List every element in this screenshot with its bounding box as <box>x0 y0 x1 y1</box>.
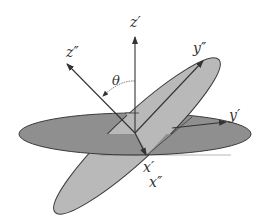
z-prime-label: z′ <box>129 14 141 30</box>
x-prime-label: x′ <box>143 159 155 175</box>
z-double-prime-label: z″ <box>65 44 79 60</box>
y-prime-label: y′ <box>228 107 241 123</box>
y-double-prime-label: y″ <box>192 40 207 56</box>
x-double-prime-label: x″ <box>149 174 163 190</box>
theta-label: θ <box>112 73 120 88</box>
rotation-diagram: z′ z″ θ y″ y′ x′ x″ <box>0 0 267 224</box>
